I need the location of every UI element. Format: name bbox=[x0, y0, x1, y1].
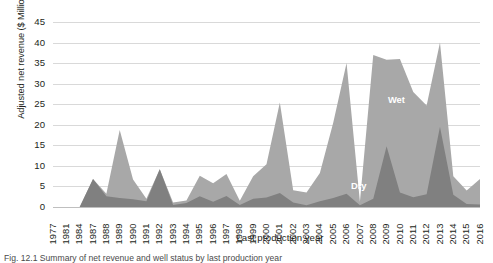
y-axis-tick: 15 bbox=[1, 140, 45, 150]
x-axis-tick: 2016 bbox=[474, 223, 483, 244]
plot-area: Wet Dry bbox=[53, 22, 480, 207]
series-inline-label-wet: Wet bbox=[388, 94, 405, 105]
x-axis-tick: 1988 bbox=[101, 223, 110, 244]
x-axis-tick: 1991 bbox=[141, 223, 150, 244]
x-axis-tick: 1989 bbox=[114, 223, 123, 244]
x-axis-tick: 1990 bbox=[127, 223, 136, 244]
x-axis-title: Last production year bbox=[150, 232, 410, 243]
x-axis-tick: 2015 bbox=[461, 223, 470, 244]
y-axis-tick: 0 bbox=[1, 202, 45, 212]
y-axis-tick: 45 bbox=[1, 17, 45, 27]
x-axis-tick: 1987 bbox=[87, 223, 96, 244]
y-axis-tick: 5 bbox=[1, 181, 45, 191]
x-axis-tick: 2012 bbox=[421, 223, 430, 244]
y-axis-tick-labels: 051015202530354045 bbox=[0, 22, 50, 207]
y-axis-tick: 20 bbox=[1, 120, 45, 130]
figure-caption: Fig. 12.1 Summary of net revenue and wel… bbox=[4, 253, 493, 263]
y-axis-tick: 40 bbox=[1, 38, 45, 48]
series-inline-label-dry: Dry bbox=[351, 180, 367, 191]
x-axis-tick: 1981 bbox=[61, 223, 70, 244]
x-axis-tick: 1984 bbox=[74, 223, 83, 244]
figure-container: Adjusted net revenue ($ Million) 0510152… bbox=[0, 0, 493, 263]
y-axis-tick: 25 bbox=[1, 99, 45, 109]
x-axis-tick: 2013 bbox=[434, 223, 443, 244]
y-axis-tick: 10 bbox=[1, 161, 45, 171]
area-series-svg bbox=[53, 22, 480, 207]
y-axis-tick: 30 bbox=[1, 79, 45, 89]
y-axis-tick: 35 bbox=[1, 58, 45, 68]
area-series-wet bbox=[53, 43, 480, 207]
x-axis-tick: 1977 bbox=[47, 223, 56, 244]
x-axis-tick: 2014 bbox=[448, 223, 457, 244]
